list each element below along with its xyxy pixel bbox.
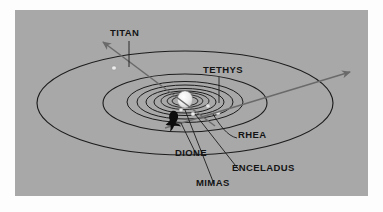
trajectory-outbound [103,42,215,126]
figure-root: TITAN TETHYS RHEA DIONE ENCELADUS MIMAS [0,0,383,212]
moon-marker-tethys [206,104,210,108]
label-titan: TITAN [110,28,139,38]
moon-marker-titan [112,66,117,70]
label-mimas: MIMAS [196,178,230,188]
moon-marker-mimas [179,108,183,112]
label-tethys: TETHYS [203,65,243,75]
moon-marker-enceladus [191,112,195,116]
orbit-diagram-svg [15,10,368,196]
label-enceladus: ENCELADUS [232,163,295,173]
orbit-diagram-panel: TITAN TETHYS RHEA DIONE ENCELADUS MIMAS [15,10,368,196]
label-rhea: RHEA [238,130,267,140]
label-dione: DIONE [175,148,207,158]
